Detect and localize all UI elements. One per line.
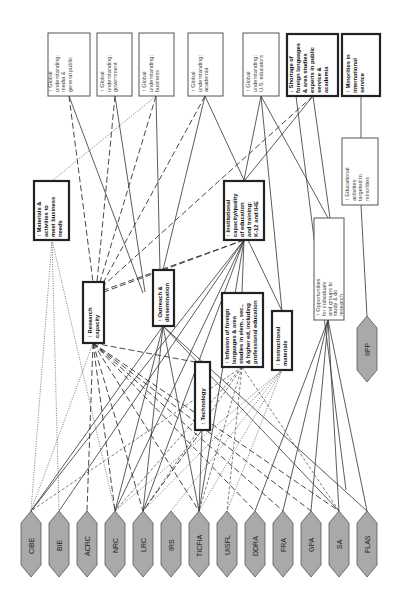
hexagon-ticfia: TICFIA bbox=[189, 511, 209, 577]
outcome-box-media-public: ↑ Global understanding: media & general … bbox=[47, 33, 90, 96]
svg-text:IIPP: IIPP bbox=[364, 342, 371, 356]
hexagon-uisfl: UISFL bbox=[217, 511, 237, 577]
svg-text:LRC: LRC bbox=[140, 538, 147, 552]
svg-text:ACRC: ACRC bbox=[84, 536, 91, 556]
outcome-box-government: ↑ Global understanding: government bbox=[97, 33, 132, 96]
hexagon-bie: BIE bbox=[49, 511, 69, 577]
svg-text:UISFL: UISFL bbox=[224, 535, 231, 555]
hexagon-acrc: ACRC bbox=[77, 511, 97, 577]
svg-text:↑ Infusion of foreign la: ↑ Infusion of foreign languages & area s… bbox=[224, 300, 258, 364]
svg-text:IRS: IRS bbox=[168, 539, 175, 551]
svg-text:FRA: FRA bbox=[280, 538, 287, 552]
hexagon-gpa: GPA bbox=[301, 511, 321, 577]
box-materials-business: ↑ Materials & activities to meet busines… bbox=[34, 181, 69, 240]
outcome-box-us-educators: ↑ Global understanding: U.S. educators bbox=[243, 33, 279, 96]
svg-text:SA: SA bbox=[336, 539, 343, 549]
hexagon-ddra: DDRA bbox=[245, 511, 265, 577]
box-technology: ↑ Technology bbox=[195, 362, 210, 430]
box-instructional-materials: ↑ Instructional materials bbox=[272, 311, 292, 370]
svg-text:CIBE: CIBE bbox=[28, 537, 35, 554]
svg-text:↑ Outreach & disseminati: ↑ Outreach & dissemination bbox=[157, 283, 170, 322]
svg-text:FLAS: FLAS bbox=[364, 535, 371, 553]
outcome-box-minorities: ↑ Minorities in international service bbox=[342, 34, 380, 96]
outcome-box-shortage: ↓ Shortage of foreign languages & area s… bbox=[287, 34, 338, 96]
svg-text:DDRA: DDRA bbox=[252, 536, 259, 556]
hexagon-fra: FRA bbox=[273, 511, 293, 577]
svg-text:NRC: NRC bbox=[112, 538, 119, 553]
box-research-capacity: ↑ Research capacity bbox=[83, 282, 104, 343]
hexagon-irs: IRS bbox=[161, 511, 181, 577]
hexagon-flas: FLAS bbox=[357, 511, 377, 577]
program-hexagons: CIBE BIE ACRC NRC LRC IRS TICFIA UISFL bbox=[21, 316, 377, 577]
outcome-box-business: ↑ Global understanding: business bbox=[139, 33, 174, 96]
hexagon-sa: SA bbox=[329, 511, 349, 577]
svg-text:TICFIA: TICFIA bbox=[196, 535, 203, 557]
box-outreach: ↑ Outreach & dissemination bbox=[153, 270, 174, 326]
svg-text:↑ Technology: ↑ Technology bbox=[200, 388, 206, 425]
box-educational-activities: ↑ Educational activities targeted to min… bbox=[342, 138, 378, 205]
outcome-box-academia: ↑ Global understanding: academia bbox=[188, 33, 223, 96]
logic-model-diagram: ↑ Global understanding: media & general … bbox=[0, 0, 403, 611]
svg-text:GPA: GPA bbox=[308, 537, 315, 552]
box-infusion: ↑ Infusion of foreign languages & area s… bbox=[222, 293, 263, 367]
hexagon-cibe: CIBE bbox=[21, 511, 41, 577]
hexagon-nrc: NRC bbox=[105, 511, 125, 577]
box-opportunities: ↑ Opportunities for individuals and grou… bbox=[314, 218, 344, 320]
svg-text:BIE: BIE bbox=[56, 539, 63, 551]
box-institutional-capacity: ↑ Institutional capacity/quality of educ… bbox=[224, 181, 264, 240]
hexagon-iipp: IIPP bbox=[357, 316, 377, 382]
hexagon-lrc: LRC bbox=[133, 511, 153, 577]
